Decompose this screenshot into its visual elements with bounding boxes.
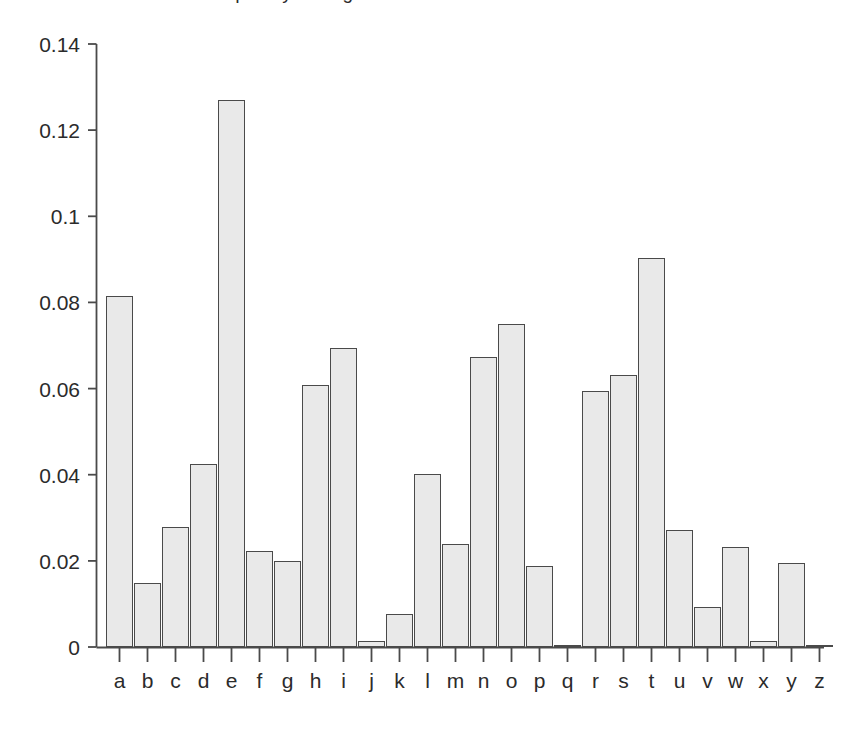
bar-a (106, 296, 133, 647)
y-tick-label: 0 (8, 637, 80, 658)
x-tick-label-t: t (649, 670, 655, 691)
y-tick-label: 0.02 (8, 550, 80, 571)
x-tick-label-f: f (257, 670, 263, 691)
y-tick-label: 0.06 (8, 378, 80, 399)
x-tick-label-o: o (506, 670, 518, 691)
bar-j (358, 641, 385, 647)
bar-s (610, 375, 637, 647)
x-tick-label-n: n (478, 670, 490, 691)
bar-g (274, 561, 301, 647)
x-tick-label-u: u (674, 670, 686, 691)
bar-chart-plot-area: 0.14 0.12 0.1 0.08 0.06 0.04 0.02 0 abcd… (0, 0, 847, 731)
bar-b (134, 583, 161, 647)
bar-u (666, 530, 693, 647)
y-axis-ticks (88, 44, 97, 647)
x-axis-ticks (120, 648, 820, 663)
x-tick-label-d: d (198, 670, 210, 691)
x-tick-label-h: h (310, 670, 322, 691)
x-tick-label-y: y (786, 670, 797, 691)
y-tick-label: 0.08 (8, 292, 80, 313)
bar-v (694, 607, 721, 647)
x-tick-label-r: r (592, 670, 599, 691)
x-tick-label-k: k (394, 670, 405, 691)
x-tick-label-s: s (618, 670, 629, 691)
x-tick-label-b: b (142, 670, 154, 691)
bar-x (750, 641, 777, 647)
x-tick-label-x: x (758, 670, 769, 691)
x-tick-label-l: l (425, 670, 430, 691)
bar-n (470, 357, 497, 647)
bar-k (386, 614, 413, 647)
bar-p (526, 566, 553, 647)
y-tick-label: 0.1 (8, 206, 80, 227)
y-tick-label: 0.04 (8, 464, 80, 485)
x-tick-label-e: e (226, 670, 238, 691)
bar-l (414, 474, 441, 647)
x-tick-label-j: j (369, 670, 374, 691)
bar-q (554, 645, 581, 647)
x-tick-label-m: m (447, 670, 465, 691)
bar-w (722, 547, 749, 647)
x-tick-label-z: z (814, 670, 825, 691)
bar-d (190, 464, 217, 647)
x-tick-label-a: a (114, 670, 126, 691)
bar-i (330, 348, 357, 647)
bar-m (442, 544, 469, 647)
bar-o (498, 324, 525, 647)
x-tick-label-q: q (562, 670, 574, 691)
bar-y (778, 563, 805, 647)
bar-h (302, 385, 329, 647)
x-tick-label-i: i (341, 670, 346, 691)
bar-f (246, 551, 273, 647)
bar-e (218, 100, 245, 647)
bar-r (582, 391, 609, 647)
x-tick-label-w: w (728, 670, 743, 691)
bar-c (162, 527, 189, 647)
bar-z (806, 645, 833, 647)
chart-figure: Letter frequency in English (0, 0, 847, 731)
x-tick-label-c: c (170, 670, 181, 691)
x-tick-label-g: g (282, 670, 294, 691)
y-tick-label: 0.14 (8, 34, 80, 55)
bar-t (638, 258, 665, 647)
x-tick-label-v: v (702, 670, 713, 691)
y-tick-label: 0.12 (8, 120, 80, 141)
x-tick-label-p: p (534, 670, 546, 691)
